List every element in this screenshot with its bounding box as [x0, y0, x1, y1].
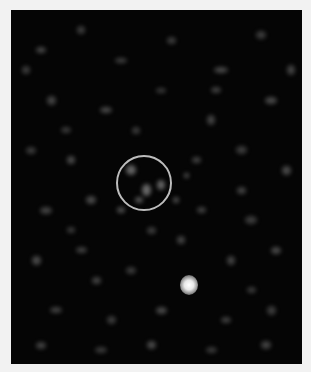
noise-blob	[156, 307, 167, 314]
noise-blob	[197, 207, 206, 213]
noise-blob	[76, 247, 87, 253]
bright-point-source	[180, 275, 198, 295]
noise-blob	[227, 256, 235, 265]
noise-blob	[287, 65, 295, 75]
noise-blob	[173, 197, 179, 203]
noise-blob	[236, 146, 247, 154]
noise-blob	[177, 236, 185, 244]
image-frame	[11, 10, 302, 364]
noise-blob	[22, 66, 30, 74]
target-circle-marker	[116, 155, 172, 211]
noise-blob	[61, 127, 71, 133]
noise-blob	[184, 173, 189, 178]
noise-blob	[214, 67, 228, 73]
noise-blob	[245, 216, 257, 224]
noise-blob	[67, 156, 75, 164]
noise-blob	[117, 207, 125, 213]
noise-blob	[207, 115, 215, 125]
noise-blob	[92, 277, 101, 284]
noise-blob	[256, 31, 266, 39]
noise-blob	[77, 26, 85, 34]
noise-blob	[267, 306, 276, 315]
noise-blob	[192, 157, 201, 163]
noise-blob	[237, 187, 246, 194]
noise-blob	[156, 88, 166, 93]
noise-blob	[67, 227, 75, 233]
noise-blob	[26, 147, 36, 154]
noise-blob	[132, 127, 140, 134]
noise-blob	[100, 107, 112, 113]
noise-blob	[107, 316, 116, 324]
noise-blob	[147, 341, 156, 349]
noise-blob	[261, 341, 271, 349]
noise-blob	[40, 207, 52, 214]
noise-blob	[271, 247, 281, 254]
noise-blob	[211, 87, 221, 93]
noise-blob	[247, 287, 256, 293]
noise-blob	[47, 96, 56, 105]
noise-blob	[50, 307, 62, 313]
noise-blob	[167, 37, 176, 44]
noise-blob	[36, 342, 46, 349]
noise-blob	[221, 317, 231, 323]
noise-blob	[282, 166, 291, 175]
noise-blob	[36, 47, 46, 53]
noise-blob	[265, 97, 277, 104]
noise-blob	[32, 256, 41, 265]
noise-blob	[126, 267, 136, 274]
noise-blob	[147, 227, 156, 234]
noise-blob	[86, 196, 96, 204]
noise-blob	[95, 347, 107, 353]
noise-blob	[206, 347, 217, 353]
noise-blob	[115, 58, 127, 63]
